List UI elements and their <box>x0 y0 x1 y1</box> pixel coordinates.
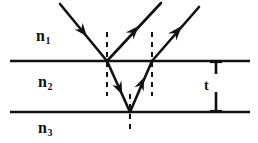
medium-label-n3: n3 <box>38 120 52 138</box>
medium-label-n2-base: n <box>38 73 47 90</box>
medium-label-n2: n2 <box>38 74 52 92</box>
internal-reflection-arrow-icon <box>134 75 148 91</box>
medium-label-n2-subscript: 2 <box>47 81 52 92</box>
internally-reflected-ray-upward <box>130 61 152 112</box>
medium-label-n3-subscript: 3 <box>47 127 52 138</box>
medium-label-n1-subscript: 1 <box>45 35 50 46</box>
refracted-ray-arrow-icon <box>112 81 126 97</box>
film-thickness-marker <box>210 61 222 112</box>
thin-film-ray-diagram: n1 n2 n3 t <box>0 0 258 143</box>
medium-label-n1: n1 <box>36 28 50 46</box>
medium-label-n1-base: n <box>36 27 45 44</box>
medium-label-n3-base: n <box>38 119 47 136</box>
thickness-label: t <box>204 79 209 93</box>
refracted-ray-downward <box>107 61 130 112</box>
